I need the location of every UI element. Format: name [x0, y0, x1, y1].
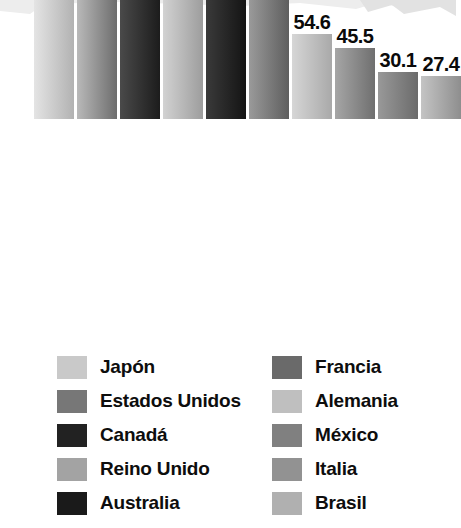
bar-value-label: 27.4	[423, 53, 460, 76]
bar-italia	[378, 72, 418, 119]
bar-alemania	[292, 34, 332, 119]
chart-legend: Japón Estados Unidos Canadá Reino Unido …	[0, 352, 456, 528]
legend-swatch-icon	[272, 492, 302, 515]
legend-label: Francia	[315, 356, 381, 378]
legend-label: Italia	[315, 458, 357, 480]
legend-item-canada: Canadá	[57, 420, 241, 450]
bar-japon	[34, 0, 74, 119]
bar-estados-unidos	[77, 0, 117, 119]
bar-francia	[249, 0, 289, 119]
legend-swatch-icon	[272, 390, 302, 413]
legend-column-right: Francia Alemania México Italia Brasil	[272, 352, 398, 522]
legend-item-reino-unido: Reino Unido	[57, 454, 241, 484]
legend-item-alemania: Alemania	[272, 386, 398, 416]
legend-item-brasil: Brasil	[272, 488, 398, 518]
legend-label: Australia	[100, 492, 180, 514]
legend-swatch-icon	[272, 458, 302, 481]
legend-swatch-icon	[57, 424, 87, 447]
bar-mexico	[335, 48, 375, 119]
legend-item-estados-unidos: Estados Unidos	[57, 386, 241, 416]
legend-label: Reino Unido	[100, 458, 210, 480]
legend-swatch-icon	[57, 458, 87, 481]
legend-item-francia: Francia	[272, 352, 398, 382]
legend-item-mexico: México	[272, 420, 398, 450]
legend-label: México	[315, 424, 378, 446]
bar-value-label: 30.1	[380, 49, 417, 72]
bar-brasil	[421, 76, 461, 119]
legend-item-japon: Japón	[57, 352, 241, 382]
legend-swatch-icon	[272, 356, 302, 379]
bar-australia	[206, 0, 246, 119]
legend-item-italia: Italia	[272, 454, 398, 484]
bar-chart-plot: 169 166 116.5 94 83.5 76.4 54.6 45.5 30.…	[0, 0, 456, 330]
legend-column-left: Japón Estados Unidos Canadá Reino Unido …	[57, 352, 241, 522]
legend-label: Estados Unidos	[100, 390, 241, 412]
legend-item-australia: Australia	[57, 488, 241, 518]
legend-swatch-icon	[57, 356, 87, 379]
legend-label: Brasil	[315, 492, 367, 514]
bar-value-label: 45.5	[337, 25, 374, 48]
bar-value-label: 54.6	[294, 11, 331, 34]
bar-reino-unido	[163, 0, 203, 119]
legend-label: Alemania	[315, 390, 398, 412]
legend-label: Canadá	[100, 424, 167, 446]
legend-label: Japón	[100, 356, 155, 378]
legend-swatch-icon	[57, 390, 87, 413]
legend-swatch-icon	[57, 492, 87, 515]
bar-canada	[120, 0, 160, 119]
legend-swatch-icon	[272, 424, 302, 447]
